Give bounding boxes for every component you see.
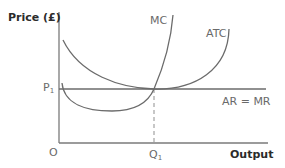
- p1-tick-label: P1: [43, 82, 54, 95]
- atc-label: ATC: [206, 28, 226, 39]
- mc-curve: [62, 15, 173, 111]
- origin-label: O: [49, 147, 58, 158]
- q1-main: Q: [149, 148, 158, 161]
- atc-curve: [63, 29, 229, 89]
- q1-tick-label: Q1: [149, 149, 162, 162]
- p1-sub: 1: [50, 87, 54, 95]
- q1-sub: 1: [158, 154, 162, 162]
- ar-mr-label: AR = MR: [222, 96, 271, 107]
- p1-main: P: [43, 81, 50, 94]
- y-axis-title: Price (£): [8, 12, 61, 23]
- mc-label: MC: [150, 15, 167, 26]
- x-axis-title: Output: [230, 149, 273, 160]
